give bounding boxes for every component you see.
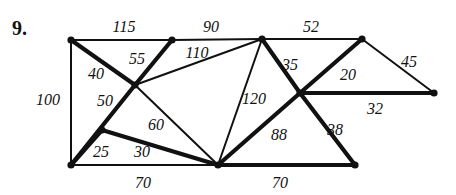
graph-edge <box>362 39 434 93</box>
edge-weight-label: 30 <box>134 144 150 160</box>
edge-weight-label: 25 <box>93 144 109 160</box>
graph-node <box>98 126 105 133</box>
graph-node <box>214 161 221 168</box>
edge-weight-label: 40 <box>88 66 104 82</box>
graph-node <box>430 89 437 96</box>
edge-weight-label: 20 <box>340 67 356 83</box>
edge-weight-label: 88 <box>271 127 287 143</box>
graph-node <box>351 161 358 168</box>
graph-node <box>67 36 74 43</box>
graph-figure: 9. 1159052453220351105540100502530601208… <box>0 0 456 195</box>
edge-weight-label: 100 <box>36 92 60 108</box>
edge-weight-label: 120 <box>242 91 266 107</box>
edge-weight-label: 35 <box>282 57 298 73</box>
edge-weight-label: 32 <box>367 101 383 117</box>
edge-weight-label: 45 <box>401 54 417 70</box>
graph-node <box>67 161 74 168</box>
edge-weight-label: 50 <box>97 93 113 109</box>
edge-weight-label: 60 <box>148 117 164 133</box>
edge-weight-label: 38 <box>327 122 343 138</box>
graph-node <box>168 36 175 43</box>
graph-node <box>296 89 303 96</box>
graph-edge <box>172 39 262 40</box>
edge-weight-label: 55 <box>129 51 145 67</box>
edge-weight-label: 90 <box>203 19 219 35</box>
edge-weight-label: 70 <box>272 175 288 191</box>
graph-canvas <box>0 0 456 195</box>
edge-weight-label: 110 <box>186 45 209 61</box>
edge-weight-label: 52 <box>303 19 319 35</box>
graph-node <box>258 35 265 42</box>
graph-node <box>358 35 365 42</box>
edge-weight-label: 70 <box>135 175 151 191</box>
graph-node <box>131 81 138 88</box>
edge-weight-label: 115 <box>113 19 136 35</box>
